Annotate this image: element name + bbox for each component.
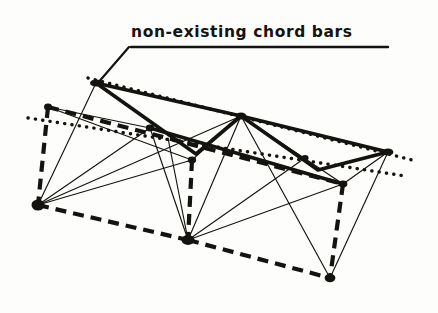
annotation-label: non-existing chord bars — [131, 23, 353, 41]
annotation-leader-group — [97, 47, 388, 84]
node-mid-right — [301, 155, 308, 161]
web-bl-to-topleft — [38, 83, 96, 205]
web-br-to-apex — [241, 116, 330, 278]
solid-chord-group — [96, 83, 388, 184]
node-mid — [188, 157, 196, 164]
web-bc-to-rightlower — [188, 184, 343, 240]
node-right-end — [383, 148, 394, 155]
upper-rail-right — [241, 116, 388, 152]
node-top-apex-center — [236, 112, 247, 119]
truss-diagram — [0, 0, 438, 313]
node-bottom-left — [32, 200, 45, 211]
web-br-to-rightend — [330, 152, 388, 278]
web-bl-to-midupper — [38, 128, 150, 205]
node-bottom-center — [182, 235, 195, 245]
node-right-lower — [339, 181, 348, 188]
annotation-leader-line — [97, 47, 129, 84]
dashed-vertical-mid — [188, 160, 192, 240]
mid-rail — [150, 128, 343, 184]
lower-dashed-chord — [38, 205, 188, 240]
node-bottom-right — [325, 274, 336, 282]
bottom-dashed-chord — [188, 240, 330, 278]
node-upper-left-corner — [44, 104, 52, 111]
node-mid-upper-left — [146, 125, 154, 132]
dashed-chord-group — [38, 107, 343, 278]
